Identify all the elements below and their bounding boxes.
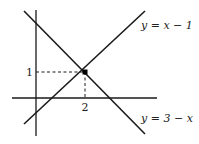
y-tick-label: 1 (26, 66, 33, 79)
intersection-point (83, 70, 88, 75)
x-tick-label: 2 (82, 101, 89, 114)
coordinate-diagram: 1 2 y = x − 1 y = 3 − x (0, 0, 199, 144)
label-y-equals-3-minus-x: y = 3 − x (140, 112, 194, 125)
label-y-equals-x-minus-1: y = x − 1 (140, 19, 193, 32)
